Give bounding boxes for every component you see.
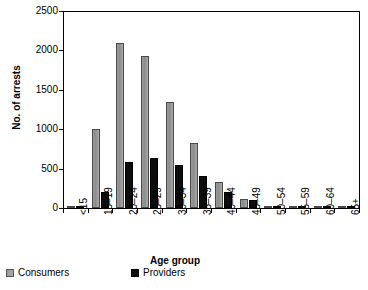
legend-swatch-icon [6,269,14,277]
x-tick-mark [310,209,311,213]
y-tick-mark [59,169,63,170]
y-tick-mark [59,11,63,12]
x-tick-mark [162,209,163,213]
x-tick-mark [186,209,187,213]
legend-label: Providers [143,268,185,278]
chart-legend: ConsumersProviders [6,268,306,284]
x-tick-mark [359,209,360,213]
x-tick-mark [334,209,335,213]
x-tick-mark [137,209,138,213]
x-axis-title: Age group [150,255,200,266]
x-tick-mark [285,209,286,213]
x-tick-mark [88,209,89,213]
legend-item-providers[interactable]: Providers [131,268,185,278]
y-tick-mark [59,50,63,51]
y-tick-mark [59,129,63,130]
chart-figure: No. of arrests 05001000150020002500 <151… [0,0,368,290]
x-tick-mark [63,209,64,213]
x-axis-tick-labels: <1515–1920–2425–2930–3435–3940–4445–4950… [0,0,368,290]
x-tick-mark [211,209,212,213]
x-tick-mark [236,209,237,213]
legend-item-consumers[interactable]: Consumers [6,268,69,278]
legend-label: Consumers [18,268,69,278]
y-tick-mark [59,90,63,91]
x-tick-mark [260,209,261,213]
x-tick-mark [112,209,113,213]
legend-swatch-icon [131,269,139,277]
